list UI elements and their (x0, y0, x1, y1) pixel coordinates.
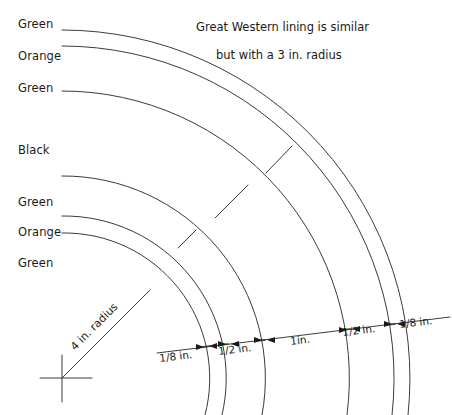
band-label-green-1: Green (18, 17, 53, 31)
radius-leader-line (62, 290, 150, 378)
arc-band-6 (62, 30, 410, 415)
arc-band-2 (62, 216, 226, 415)
arc-band-5 (62, 46, 394, 415)
title-line-2: but with a 3 in. radius (216, 48, 342, 62)
band-label-orange-2: Orange (18, 225, 61, 239)
leader-tick-middle (215, 185, 248, 218)
title-line-1: Great Western lining is similar (196, 20, 369, 34)
diagram-page: Green Orange Green Black Green Orange Gr… (0, 0, 452, 415)
band-label-black: Black (18, 143, 50, 157)
arc-band-3 (62, 176, 265, 415)
band-label-orange-1: Orange (18, 49, 61, 63)
band-label-green-3: Green (18, 195, 53, 209)
dimension-label-3: 1in. (290, 333, 311, 347)
band-label-green-4: Green (18, 256, 53, 270)
arc-band-1 (62, 233, 210, 415)
band-label-green-2: Green (18, 81, 53, 95)
leader-tick-inner (178, 230, 196, 248)
arc-band-4 (62, 91, 349, 415)
leader-tick-outer (266, 146, 292, 173)
